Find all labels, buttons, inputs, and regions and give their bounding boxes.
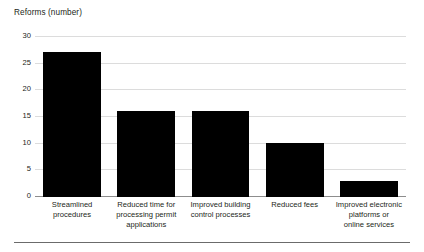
bar-reduced-fees bbox=[266, 143, 324, 197]
y-tick-label-15: 15 bbox=[0, 112, 31, 120]
x-label-4: Improved electronicplatforms oronline se… bbox=[332, 200, 406, 231]
bar-improved-electronic-platforms-or-online-services bbox=[340, 181, 398, 197]
x-label-3: Reduced fees bbox=[258, 200, 332, 210]
bar-streamlined-procedures bbox=[43, 52, 101, 197]
x-label-0: Streamlinedprocedures bbox=[35, 200, 109, 220]
y-tick-label-5: 5 bbox=[0, 165, 31, 173]
y-tick-label-25: 25 bbox=[0, 59, 31, 67]
bar-chart-figure: Reforms (number) 30 25 20 15 10 5 0 Stre… bbox=[0, 0, 424, 252]
y-tick-label-20: 20 bbox=[0, 85, 31, 93]
chart-title: Reforms (number) bbox=[14, 8, 82, 18]
bar-improved-building-control-processes bbox=[192, 111, 250, 197]
bar-reduced-time-for-processing-permit-applications bbox=[117, 111, 175, 197]
x-label-1: Reduced time forprocessing permitapplica… bbox=[109, 200, 183, 231]
y-tick-label-0: 0 bbox=[0, 192, 31, 200]
y-tick-label-10: 10 bbox=[0, 139, 31, 147]
y-axis-tick-labels: 30 25 20 15 10 5 0 bbox=[0, 36, 31, 197]
bars-layer bbox=[35, 36, 406, 197]
x-label-2: Improved buildingcontrol processes bbox=[183, 200, 257, 220]
x-axis-category-labels: Streamlinedprocedures Reduced time forpr… bbox=[35, 200, 406, 240]
bottom-divider bbox=[14, 242, 410, 243]
y-tick-label-30: 30 bbox=[0, 32, 31, 40]
